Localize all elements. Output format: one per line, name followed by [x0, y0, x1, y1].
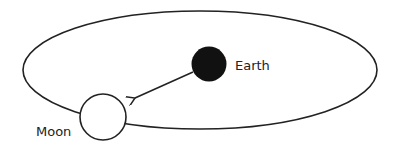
moon-icon	[80, 94, 126, 140]
gravity-arrow	[135, 72, 193, 98]
orbit-diagram: Earth Moon	[0, 0, 398, 150]
moon-label: Moon	[36, 125, 71, 138]
earth-icon	[192, 47, 227, 82]
earth-label: Earth	[235, 59, 270, 72]
